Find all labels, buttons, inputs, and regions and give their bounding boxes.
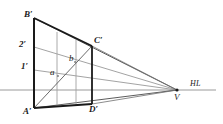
vanishing-ray-group bbox=[34, 18, 177, 108]
edge-b-prime-c-prime bbox=[34, 18, 92, 46]
label-horizon-line: HL bbox=[190, 80, 201, 88]
vanishing-ray-from-1-prime bbox=[34, 70, 177, 90]
tick-point-1-prime bbox=[33, 69, 35, 71]
vertical-division-group bbox=[57, 32, 76, 106]
label-point-a: a bbox=[50, 68, 55, 77]
interior-point-a bbox=[57, 75, 59, 77]
interior-point-b bbox=[74, 61, 76, 63]
label-2-prime: 2′ bbox=[19, 40, 26, 49]
label-b-prime: B′ bbox=[24, 10, 33, 19]
diagram-canvas bbox=[0, 0, 223, 124]
vanishing-ray-from-d-prime bbox=[92, 90, 177, 104]
label-c-prime: C′ bbox=[94, 36, 103, 45]
vanishing-ray-from-2-prime bbox=[34, 47, 177, 90]
label-1-prime: 1′ bbox=[21, 62, 28, 71]
tick-point-2-prime bbox=[33, 46, 35, 48]
vanishing-ray-from-a-prime bbox=[34, 90, 177, 108]
label-vanishing-point: V bbox=[174, 93, 180, 102]
label-point-b: b bbox=[69, 54, 74, 63]
label-d-prime: D′ bbox=[89, 105, 98, 114]
label-a-prime: A′ bbox=[23, 107, 32, 116]
perspective-diagram: B′ 2′ 1′ A′ C′ D′ a b V HL bbox=[0, 0, 223, 124]
